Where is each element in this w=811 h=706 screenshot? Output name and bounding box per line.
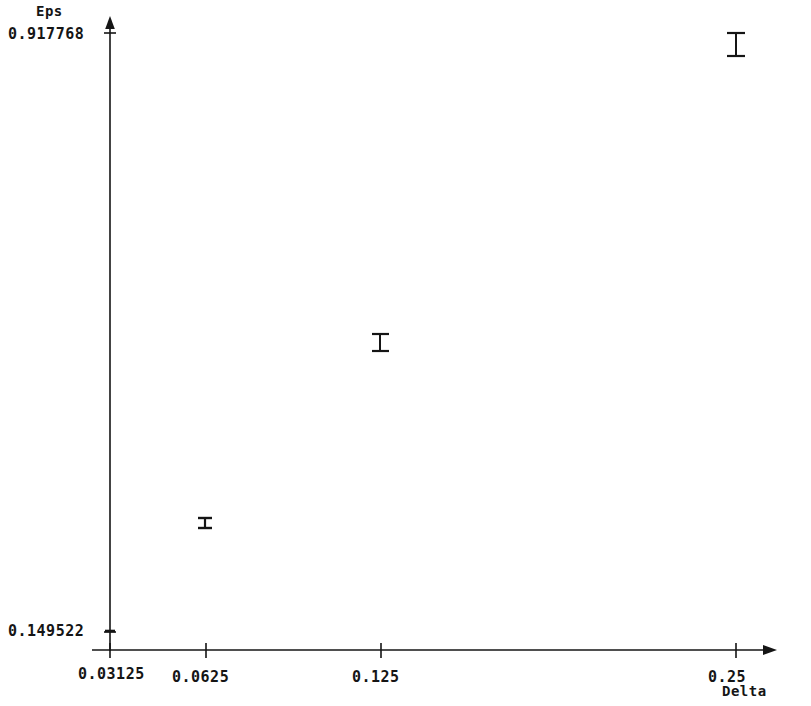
- x-axis-tick-label-2: 0.125: [352, 670, 400, 685]
- data-point-2: [372, 334, 389, 351]
- x-axis-tick-label-0: 0.03125: [78, 667, 145, 682]
- x-axis: [92, 643, 777, 658]
- y-axis-label: Eps: [36, 4, 63, 18]
- y-axis-max-tick-label: 0.917768: [8, 27, 84, 42]
- data-point-3: [727, 33, 745, 56]
- x-axis-label: Delta: [722, 684, 767, 698]
- data-point-1: [198, 518, 212, 528]
- x-axis-tick-label-1: 0.0625: [172, 670, 229, 685]
- scatter-plot-canvas: [0, 0, 811, 706]
- y-axis-min-tick-label: 0.149522: [8, 624, 84, 639]
- y-axis: [104, 16, 116, 651]
